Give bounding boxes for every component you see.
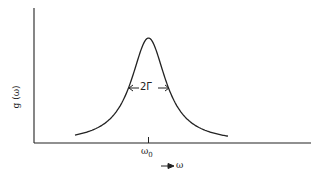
x-axis-label: ω <box>176 161 183 170</box>
lorentzian-figure <box>0 0 324 178</box>
x-direction-arrow <box>161 164 174 169</box>
y-axis-label: g (ω) <box>11 86 21 109</box>
center-frequency-label: ω0 <box>141 147 153 159</box>
width-label: 2Γ <box>139 82 153 92</box>
center-frequency-subscript: 0 <box>148 151 152 159</box>
